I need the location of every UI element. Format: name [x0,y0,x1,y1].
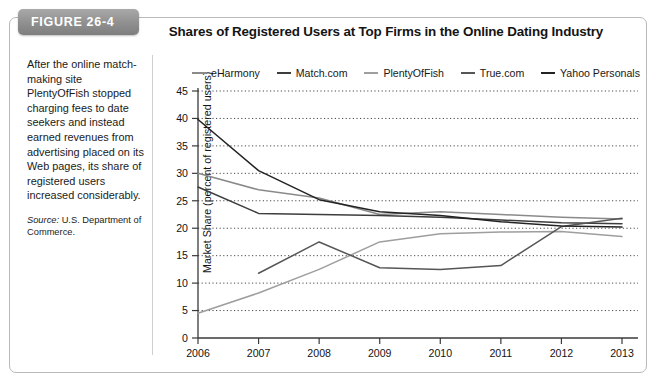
legend-label: Yahoo Personals [560,67,640,79]
x-axis-tick-label: 2012 [550,347,574,357]
figure-number-label: FIGURE 26-4 [31,15,114,29]
legend-item-plentyoffish[interactable]: PlentyOfFish [364,67,444,79]
figure-caption: After the online match-making site Plent… [27,57,145,239]
series-line-match-com [198,187,622,224]
y-axis-tick-label: 25 [176,195,188,207]
caption-text: After the online match-making site Plent… [27,57,145,203]
caption-source: Source: U.S. Department of Commerce. [27,214,145,239]
y-axis-tick-label: 0 [182,332,188,344]
x-axis-tick-label: 2007 [247,347,271,357]
x-axis-tick-label: 2010 [428,347,452,357]
legend-item-match-com[interactable]: Match.com [277,67,348,79]
chart-legend: eHarmonyMatch.comPlentyOfFishTrue.comYah… [192,64,640,81]
y-axis-tick-label: 40 [176,112,188,124]
y-axis-tick-label: 10 [176,277,188,289]
x-axis-tick-label: 2013 [610,347,634,357]
y-axis-tick-label: 30 [176,167,188,179]
x-axis-tick-label: 2006 [186,347,210,357]
figure-number-badge: FIGURE 26-4 [18,9,139,35]
line-chart-plot: 0510152025303540452006200720082009201020… [160,82,640,357]
legend-swatch-icon [461,72,475,74]
source-prefix: Source: [27,215,59,225]
y-axis-tick-label: 45 [176,85,188,97]
legend-item-yahoo-personals[interactable]: Yahoo Personals [541,67,640,79]
legend-label: True.com [480,67,524,79]
legend-item-eharmony[interactable]: eHarmony [192,67,260,79]
legend-swatch-icon [192,72,206,74]
y-axis-tick-label: 15 [176,249,188,261]
legend-item-true-com[interactable]: True.com [461,67,524,79]
y-axis-tick-label: 5 [182,304,188,316]
legend-swatch-icon [277,72,291,74]
y-axis-tick-label: 35 [176,140,188,152]
chart-title: Shares of Registered Users at Top Firms … [140,24,632,39]
legend-label: eHarmony [211,67,260,79]
x-axis-tick-label: 2008 [307,347,331,357]
legend-swatch-icon [541,72,555,74]
y-axis-tick-label: 20 [176,222,188,234]
series-line-eharmony [198,173,622,219]
figure-page: FIGURE 26-4 Shares of Registered Users a… [0,0,657,388]
legend-swatch-icon [364,72,378,74]
x-axis-tick-label: 2011 [489,347,512,357]
legend-label: PlentyOfFish [383,67,444,79]
legend-label: Match.com [296,67,348,79]
x-axis-tick-label: 2009 [368,347,392,357]
